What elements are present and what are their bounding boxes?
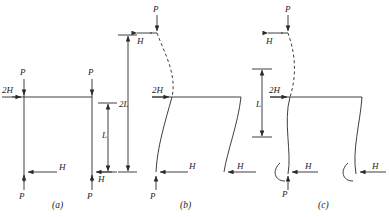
label-H-base-b-right: H [237, 162, 244, 171]
label-P-top-c: P [285, 5, 291, 14]
label-2H-beam-a: 2H [2, 86, 13, 95]
label-2H-beam-b: 2H [152, 86, 163, 95]
panel-c-left-base-arc [275, 163, 285, 181]
panel-c-upper-column-dashed [288, 33, 294, 97]
figure-canvas: P P 2H H P H P L 2L P H 2H H P H P H 2H … [0, 0, 389, 217]
label-P-top-b: P [153, 5, 159, 14]
label-H-base-right-a: H [98, 175, 105, 184]
label-H-base-b-left: H [189, 162, 196, 171]
label-H-base-left-a: H [59, 163, 66, 172]
label-P-top-left-a: P [20, 68, 26, 77]
label-P-base-right-a: P [87, 192, 93, 201]
label-dim-L-a: L [102, 131, 107, 140]
panel-c-left-column [287, 97, 290, 174]
dimension-L-panel-a [98, 103, 117, 172]
caption-panel-a: (a) [52, 200, 63, 210]
panel-b-geometry [152, 33, 241, 172]
label-P-base-left-a: P [19, 192, 25, 201]
label-P-base-b: P [150, 192, 156, 201]
panel-c-geometry [270, 33, 362, 181]
dimension-L-panel-c [252, 69, 272, 137]
label-H-base-c-right: H [372, 162, 379, 171]
panel-a-loads [2, 79, 112, 190]
label-dim-L-c: L [256, 100, 261, 109]
panel-a-geometry [12, 90, 92, 182]
label-H-top-b: H [137, 37, 144, 46]
label-2H-beam-c: 2H [269, 86, 280, 95]
label-H-top-c: H [266, 37, 273, 46]
caption-panel-b: (b) [180, 200, 191, 210]
panel-c-right-base-arc [343, 163, 353, 181]
frame-buckling-svg [0, 0, 389, 217]
label-P-base-c: P [282, 190, 288, 199]
caption-panel-c: (c) [318, 200, 329, 210]
label-H-base-c-left: H [305, 162, 312, 171]
panel-b-left-column [156, 97, 172, 172]
label-dim-2L-a: 2L [119, 100, 129, 109]
label-P-top-right-a: P [88, 68, 94, 77]
panel-c-loads [268, 15, 386, 190]
panel-c-right-column [355, 97, 362, 174]
